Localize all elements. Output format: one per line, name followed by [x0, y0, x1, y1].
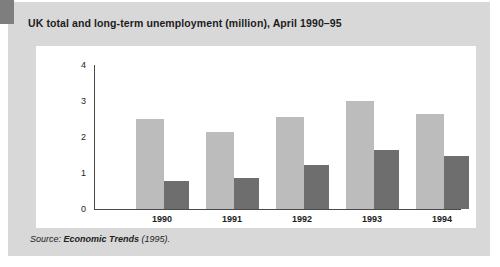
y-axis-tick-label: 2	[64, 133, 86, 142]
bar-total-unemployment	[206, 132, 234, 209]
bar-group	[276, 64, 329, 209]
x-axis-tick-label: 1993	[337, 214, 407, 224]
bar-longterm-unemployment	[444, 156, 469, 209]
bar-total-unemployment	[416, 114, 444, 209]
bar-group	[346, 64, 399, 209]
bar-total-unemployment	[346, 101, 374, 209]
x-axis-tick-label: 1990	[127, 214, 197, 224]
y-axis-tick-label: 0	[64, 205, 86, 214]
x-axis-tick-label: 1992	[267, 214, 337, 224]
bar-total-unemployment	[136, 119, 164, 209]
source-note: Source: Economic Trends (1995).	[30, 234, 170, 245]
y-axis-line	[94, 65, 95, 210]
source-prefix: Source:	[30, 234, 61, 244]
y-axis-tick-label: 4	[64, 61, 86, 70]
y-axis-tick-label: 3	[64, 97, 86, 106]
bar-group	[416, 64, 469, 209]
bar-longterm-unemployment	[164, 181, 189, 209]
figure-unemployment-chart: UK total and long-term unemployment (mil…	[0, 0, 500, 267]
y-axis-tick-label: 1	[64, 169, 86, 178]
x-axis-tick-label: 1991	[197, 214, 267, 224]
bar-total-unemployment	[276, 117, 304, 209]
plot-inner: 0123419901991199219931994	[36, 46, 476, 228]
source-publication: Economic Trends	[64, 234, 139, 244]
corner-tab-marker	[0, 0, 14, 24]
bar-group	[136, 64, 189, 209]
bar-longterm-unemployment	[374, 150, 399, 209]
bar-longterm-unemployment	[304, 165, 329, 209]
x-axis-line	[94, 209, 461, 210]
x-axis-tick-label: 1994	[407, 214, 477, 224]
source-year: (1995).	[141, 234, 170, 244]
bar-longterm-unemployment	[234, 178, 259, 209]
figure-title: UK total and long-term unemployment (mil…	[28, 15, 468, 31]
bar-group	[206, 64, 259, 209]
plot-area: 0123419901991199219931994	[36, 46, 476, 228]
